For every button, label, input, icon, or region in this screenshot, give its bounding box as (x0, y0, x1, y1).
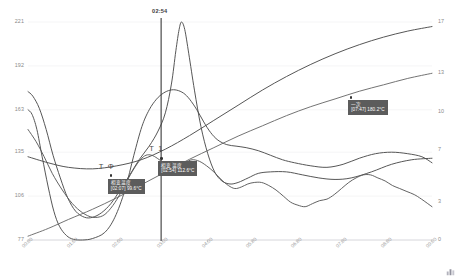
series-paths (28, 22, 432, 240)
annotation-tooltip[interactable]: 相变温度[02:07] 99.6°C (108, 179, 145, 194)
y-axis-left-tick: 221 (4, 19, 24, 24)
annotation-dot[interactable] (110, 174, 113, 177)
gridlines (28, 22, 432, 240)
y-axis-left-tick: 192 (4, 63, 24, 68)
chart-watermark-icon (446, 267, 455, 276)
y-axis-right-tick: 3 (438, 199, 441, 204)
y-axis-left-tick: 135 (4, 149, 24, 154)
series-line-series-b-peak (28, 22, 432, 218)
y-axis-right-tick: 10 (438, 109, 444, 114)
tooltip-value: [02:54] 112.6°C (161, 168, 194, 174)
marker-time-label: 02:54 (152, 9, 167, 15)
tooltip-value: [07:47] 180.2°C (351, 107, 384, 113)
y-axis-left-tick: 106 (4, 193, 24, 198)
series-line-series-c-rising-upper (28, 27, 432, 169)
y-axis-right-tick: 13 (438, 70, 444, 75)
chart-container: 22119216313510677 171310730 00:0001:0002… (0, 0, 458, 279)
tooltip-value: [02:07] 99.6°C (111, 186, 142, 192)
y-axis-right-tick: 17 (438, 19, 444, 24)
annotation-tooltip[interactable]: 一次[07:47] 180.2°C (348, 100, 387, 115)
y-axis-right-tick: 0 (438, 237, 441, 242)
annotation-dot[interactable] (160, 157, 163, 160)
annotation-tag: T Φ (99, 163, 115, 171)
series-line-series-e-jagged (28, 129, 432, 217)
y-axis-left-tick: 163 (4, 107, 24, 112)
y-axis-right-tick: 7 (438, 147, 441, 152)
annotation-tag: T 1 (149, 145, 163, 153)
y-axis-left-tick: 77 (4, 237, 24, 242)
annotation-tooltip[interactable]: 相变温度[02:54] 112.6°C (158, 161, 197, 176)
